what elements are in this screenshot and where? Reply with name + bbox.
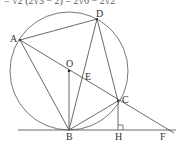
label-f: F — [160, 131, 166, 141]
diagram-canvas: = √2 (2√3 − 2) = 2√6 − 2√2 A D O E C B H… — [0, 0, 188, 141]
segment-af — [20, 40, 174, 133]
geometry-diagram: = √2 (2√3 − 2) = 2√6 − 2√2 A D O E C B H… — [0, 0, 188, 141]
point-a — [19, 39, 21, 41]
segment-ad — [20, 19, 97, 40]
label-a: A — [10, 33, 18, 44]
label-b: B — [66, 131, 73, 141]
label-c: C — [122, 94, 129, 105]
segment-db — [69, 19, 97, 130]
point-o — [68, 70, 71, 73]
point-c — [117, 100, 119, 102]
right-angle-mark — [118, 125, 123, 130]
segment-bc — [69, 101, 118, 130]
label-e: E — [85, 71, 91, 82]
segment-ab — [20, 40, 69, 130]
label-o: O — [66, 58, 73, 69]
label-h: H — [115, 131, 122, 141]
label-d: D — [96, 8, 103, 19]
header-fragment: = √2 (2√3 − 2) = 2√6 − 2√2 — [4, 0, 115, 7]
